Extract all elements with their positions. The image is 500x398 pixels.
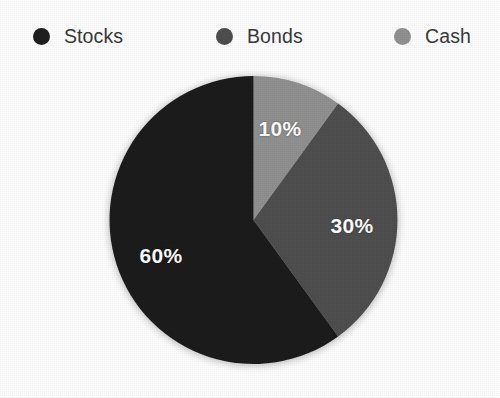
slice-label-bonds: 30% (330, 214, 373, 238)
slice-label-cash: 10% (258, 117, 301, 141)
pie-chart: 10% 30% 60% (0, 0, 500, 398)
slice-label-stocks: 60% (139, 244, 182, 268)
pie-chart-svg (0, 0, 500, 398)
